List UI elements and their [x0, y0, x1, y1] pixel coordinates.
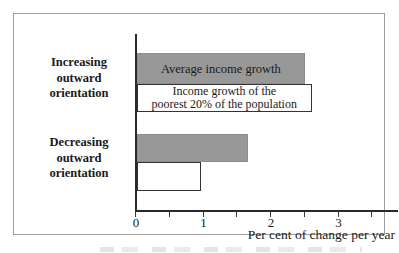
x-axis-line: [135, 210, 398, 212]
category-label-increasing: Increasing outward orientation: [24, 55, 134, 102]
bar-increasing-average-income: Average income growth: [137, 53, 306, 84]
category-label-decreasing: Decreasing outward orientation: [24, 135, 134, 182]
bar-increasing-poorest-20: Income growth of the poorest 20% of the …: [137, 84, 313, 112]
series-poorest-20-label-line1: Income growth of the: [172, 84, 276, 98]
category-label-line: Increasing: [24, 55, 134, 71]
x-axis-title: Per cent of change per year: [136, 227, 395, 243]
category-label-line: outward: [24, 71, 134, 87]
cropped-caption-remnant: [100, 247, 362, 252]
category-label-line: orientation: [24, 166, 134, 182]
x-axis-tick-0p5: [169, 212, 170, 217]
x-axis-tick-1p5: [236, 212, 237, 217]
series-average-income-label: Average income growth: [161, 62, 281, 76]
category-label-line: orientation: [24, 86, 134, 102]
category-label-line: Decreasing: [24, 135, 134, 151]
category-label-line: outward: [24, 151, 134, 167]
series-poorest-20-label: Income growth of the poorest 20% of the …: [152, 85, 297, 111]
bar-decreasing-average-income: [137, 134, 248, 162]
bar-decreasing-poorest-20: [137, 162, 201, 191]
x-axis-tick-3p5: [371, 212, 372, 217]
y-axis-line: [135, 34, 137, 211]
x-axis-tick-2p5: [304, 212, 305, 217]
series-poorest-20-label-line2: poorest 20% of the population: [152, 97, 297, 111]
chart-frame: Increasing outward orientation Decreasin…: [13, 13, 385, 235]
